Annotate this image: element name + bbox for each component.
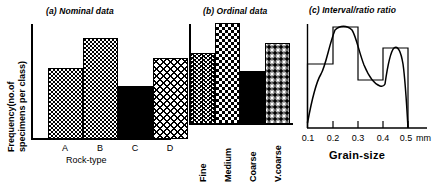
xtick-a-2: C [116,143,154,153]
xtick-c-4: 0.5 [395,133,417,143]
panel-a-title: (a) Nominal data [46,6,114,16]
xtick-c-3: 0.4 [372,133,394,143]
xtick-a-1: B [81,143,119,153]
xtick-b-3: V.coarse [273,145,283,182]
xtick-c-0: 0.1 [297,133,319,143]
panel-b-title: (b) Ordinal data [203,6,267,16]
panel-b-ordinal: (b) Ordinal data Fine Medium Coarse V.co… [180,0,295,186]
xtick-c-1: 0.2 [322,133,344,143]
xtick-b-1: Medium [223,148,233,182]
xtick-b-0: Fine [198,163,208,182]
panel-c-ticks [308,121,409,128]
bar-a-A [48,68,83,139]
bar-b-fine [190,53,215,124]
x-axis-unit: mm [416,133,436,143]
bar-a-B [83,38,118,139]
y-axis-label-2: specimens per class) [17,61,28,152]
panel-a-nominal: (a) Nominal data Frequency(no.of specime… [0,0,180,186]
panel-c-interval: (c) Interval/ratio ratio 0.1 0.2 0.3 0.4… [295,0,436,186]
panel-a-y-axis [31,24,33,139]
bar-b-vcoarse [265,43,290,124]
bar-a-C [118,86,153,139]
y-axis-label-line1: Frequency(no.of [6,81,16,152]
bar-b-medium [215,23,240,124]
y-axis-label-line2: specimens per class) [17,61,27,152]
y-axis-label: Frequency(no.of [6,81,17,152]
figure-root: (a) Nominal data Frequency(no.of specime… [0,0,436,186]
panel-a-x-title: Rock-type [66,155,107,165]
bar-b-coarse [240,71,265,124]
xtick-c-2: 0.3 [347,133,369,143]
xtick-a-0: A [46,143,84,153]
xtick-b-2: Coarse [248,151,258,182]
panel-c-x-title: Grain-size [329,149,385,161]
panel-c-histogram [308,27,409,128]
